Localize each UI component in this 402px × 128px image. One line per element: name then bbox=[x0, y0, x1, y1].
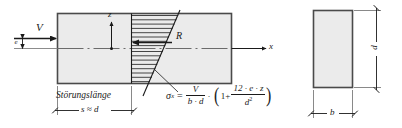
formula-fraction-1-numerator: V bbox=[191, 85, 201, 94]
label-depth-d: d bbox=[370, 45, 379, 50]
formula-fraction-2: 12 · e · z d2 bbox=[231, 84, 265, 108]
cross-section-view bbox=[314, 11, 353, 88]
label-disturbance-length-value: s ≈ d bbox=[81, 105, 98, 114]
formula-multiply-dot: · bbox=[207, 91, 210, 101]
stress-formula: σx = V b · d · ( 1+ 12 · e · z d2 ) bbox=[166, 84, 272, 108]
label-eccentricity-e: e bbox=[15, 39, 18, 46]
label-width-b: b bbox=[330, 108, 335, 117]
figure-vector-layer bbox=[0, 0, 402, 128]
formula-fraction-1-denominator: b · d bbox=[186, 97, 206, 106]
formula-fraction-2-bar bbox=[231, 94, 265, 95]
formula-fraction-2-numerator: 12 · e · z bbox=[231, 84, 265, 93]
label-disturbance-length: Störungslänge bbox=[56, 91, 111, 101]
formula-equals: = bbox=[177, 90, 183, 101]
formula-fraction-2-denominator-group: d2 bbox=[243, 96, 255, 107]
formula-close-paren: ) bbox=[266, 87, 271, 105]
formula-sigma-subscript: x bbox=[171, 92, 174, 99]
label-x-axis: x bbox=[269, 42, 273, 51]
label-load-V: V bbox=[36, 22, 43, 33]
label-resultant-R: R bbox=[176, 31, 182, 41]
load-arrow-group bbox=[14, 39, 56, 49]
formula-fraction-1: V b · d bbox=[186, 85, 206, 107]
formula-open-paren: ( bbox=[214, 87, 219, 105]
formula-fraction-2-denominator-exponent: 2 bbox=[249, 96, 252, 102]
cross-section-rect bbox=[314, 11, 353, 88]
origin-point bbox=[110, 47, 113, 50]
figure-canvas: V e z R x Störungslänge s ≈ d b d σx = V… bbox=[0, 0, 402, 128]
formula-one-plus: 1+ bbox=[221, 91, 231, 101]
label-z-axis: z bbox=[108, 10, 112, 19]
